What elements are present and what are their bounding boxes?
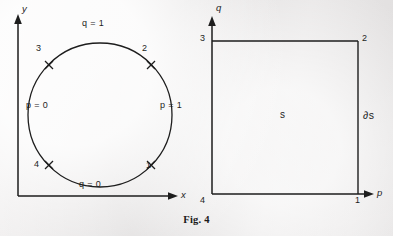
boundary-condition-p-left: p = 0 [26,101,48,110]
circle-domain-graphic [0,0,196,236]
point-label-4: 4 [34,160,39,169]
boundary-condition-q-bottom: q = 0 [79,180,101,189]
point-markers [45,61,155,169]
point-label-2: 2 [142,44,147,53]
corner-label-1: 1 [355,196,360,205]
q-axis-label: q [216,3,222,13]
circle-domain-panel: y x q = 1 q = 0 p = 0 p = 1 1 2 3 4 [0,0,196,236]
y-axis-arrowhead [14,14,22,24]
region-label-s: s [280,110,285,120]
boundary-label-ds: ∂s [363,110,375,121]
x-axis-arrowhead [168,192,178,200]
boundary-condition-q-top: q = 1 [82,19,104,28]
corner-label-4: 4 [200,196,205,205]
corner-label-2: 2 [362,34,367,43]
point-label-1: 1 [146,161,151,170]
y-axis-label: y [22,4,27,14]
point-label-3: 3 [36,44,41,53]
q-axis-arrowhead [208,16,216,26]
p-axis-arrowhead [364,190,374,198]
square-domain-panel: q p 3 2 4 1 s ∂s [196,0,393,236]
boundary-condition-p-right: p = 1 [160,101,182,110]
corner-label-3: 3 [200,34,205,43]
p-axis-label: p [377,188,383,198]
figure-caption: Fig. 4 [0,214,393,225]
x-axis-label: x [181,190,186,200]
